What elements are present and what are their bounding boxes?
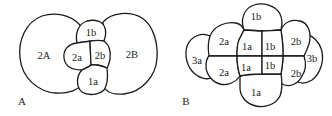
panel-b: 1b 2a 1a 1b 2b 3a 3b 2a 1a 1b 2b 1a B [182,4,322,107]
label-3b: 3b [307,53,318,64]
label-2a-lower: 2a [219,67,229,78]
label-1b: 1b [86,27,97,38]
cell-1b-top [242,4,282,31]
label-1a-bottom: 1a [251,87,261,98]
panel-label-a: A [18,95,26,107]
label-2A: 2A [38,50,51,61]
label-1a: 1a [88,76,98,87]
label-1b-center-lower: 1b [265,60,276,71]
label-1a-center-upper: 1a [242,41,252,52]
label-1a-center-lower: 1a [241,62,251,73]
label-2b: 2b [95,50,106,61]
panel-label-b: B [182,95,189,107]
embryo-cleavage-diagram: 2A 2B 1b 2a 2b 1a A 1b 2a 1a 1b 2b [0,0,332,116]
label-2a: 2a [72,52,82,63]
label-3a: 3a [192,55,202,66]
label-1b-top: 1b [251,11,262,22]
label-2b-lower: 2b [291,68,302,79]
label-2B: 2B [126,49,138,60]
label-2b-upper: 2b [291,36,302,47]
cell-1a-bottom [240,74,282,107]
label-2a-upper: 2a [219,36,229,47]
label-1b-center-upper: 1b [265,41,276,52]
panel-a: 2A 2B 1b 2a 2b 1a A [18,13,157,107]
